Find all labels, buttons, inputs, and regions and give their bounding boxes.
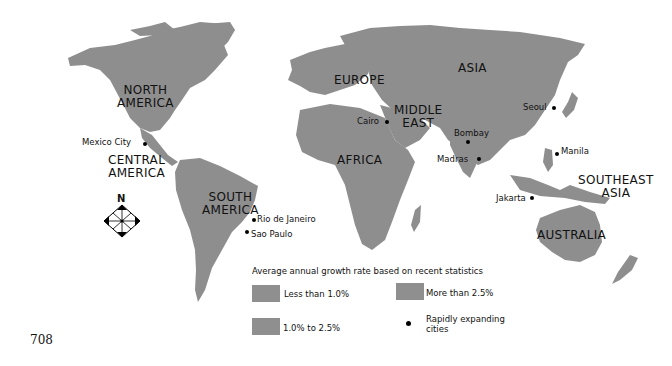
legend-swatch-less-than-1 — [252, 285, 280, 302]
legend-swatch-1-to-2-5 — [252, 318, 280, 335]
region-label-line: AMERICA — [117, 97, 174, 110]
legend-city-dot — [406, 321, 411, 326]
region-label-australia: AUSTRALIA — [537, 229, 606, 242]
city-dot-bombay — [466, 140, 470, 144]
city-label-cairo: Cairo — [357, 116, 379, 126]
region-label-europe: EUROPE — [334, 74, 385, 87]
compass-rose: N — [100, 193, 144, 239]
region-label-central-america: CENTRALAMERICA — [108, 154, 165, 180]
region-label-line: AMERICA — [108, 167, 165, 180]
region-label-africa: AFRICA — [337, 154, 382, 167]
region-label-line: ASIA — [458, 62, 487, 75]
legend-label-1-to-2-5: 1.0% to 2.5% — [283, 323, 340, 333]
legend-label-line: Rapidly expanding — [426, 314, 505, 324]
landmass-japan — [562, 92, 578, 118]
region-label-line: ASIA — [578, 187, 654, 200]
city-dot-madras — [477, 157, 481, 161]
city-label-seoul: Seoul — [523, 102, 547, 112]
city-dot-cairo — [385, 120, 389, 124]
legend-label-line: cities — [426, 324, 505, 334]
region-label-southeast-asia: SOUTHEASTASIA — [578, 174, 654, 200]
region-label-line: AFRICA — [337, 154, 382, 167]
city-dot-rio-de-janeiro — [252, 218, 256, 222]
city-label-madras: Madras — [437, 154, 468, 164]
city-dot-seoul — [552, 106, 556, 110]
legend-title: Average annual growth rate based on rece… — [252, 266, 483, 276]
world-map — [0, 0, 672, 366]
legend-label-more-than-2-5: More than 2.5% — [426, 288, 493, 298]
page-number: 708 — [30, 333, 53, 347]
landmass-new-zealand — [612, 255, 638, 284]
landmass-madagascar — [411, 205, 421, 232]
compass-icon — [100, 203, 144, 239]
region-label-south-america: SOUTHAMERICA — [202, 191, 259, 217]
city-label-sao-paulo: Sao Paulo — [251, 229, 292, 239]
legend-label-expanding-cities: Rapidly expanding cities — [426, 314, 505, 334]
region-label-asia: ASIA — [458, 62, 487, 75]
city-dot-sao-paulo — [245, 230, 249, 234]
region-label-north-america: NORTHAMERICA — [117, 84, 174, 110]
city-label-mexico-city: Mexico City — [82, 137, 131, 147]
region-label-line: EUROPE — [334, 74, 385, 87]
city-dot-mexico-city — [143, 142, 147, 146]
region-label-line: AMERICA — [202, 204, 259, 217]
legend-label-less-than-1: Less than 1.0% — [284, 289, 349, 299]
city-label-jakarta: Jakarta — [496, 193, 526, 203]
city-dot-jakarta — [530, 196, 534, 200]
region-label-middle-east: MIDDLEEAST — [394, 104, 442, 130]
city-label-rio-de-janeiro: Rio de Janeiro — [257, 214, 316, 224]
city-label-manila: Manila — [561, 146, 589, 156]
city-dot-manila — [555, 152, 559, 156]
legend-swatch-more-than-2-5 — [396, 283, 424, 300]
city-label-bombay: Bombay — [454, 128, 489, 138]
region-label-line: EAST — [394, 117, 442, 130]
region-label-line: AUSTRALIA — [537, 229, 606, 242]
